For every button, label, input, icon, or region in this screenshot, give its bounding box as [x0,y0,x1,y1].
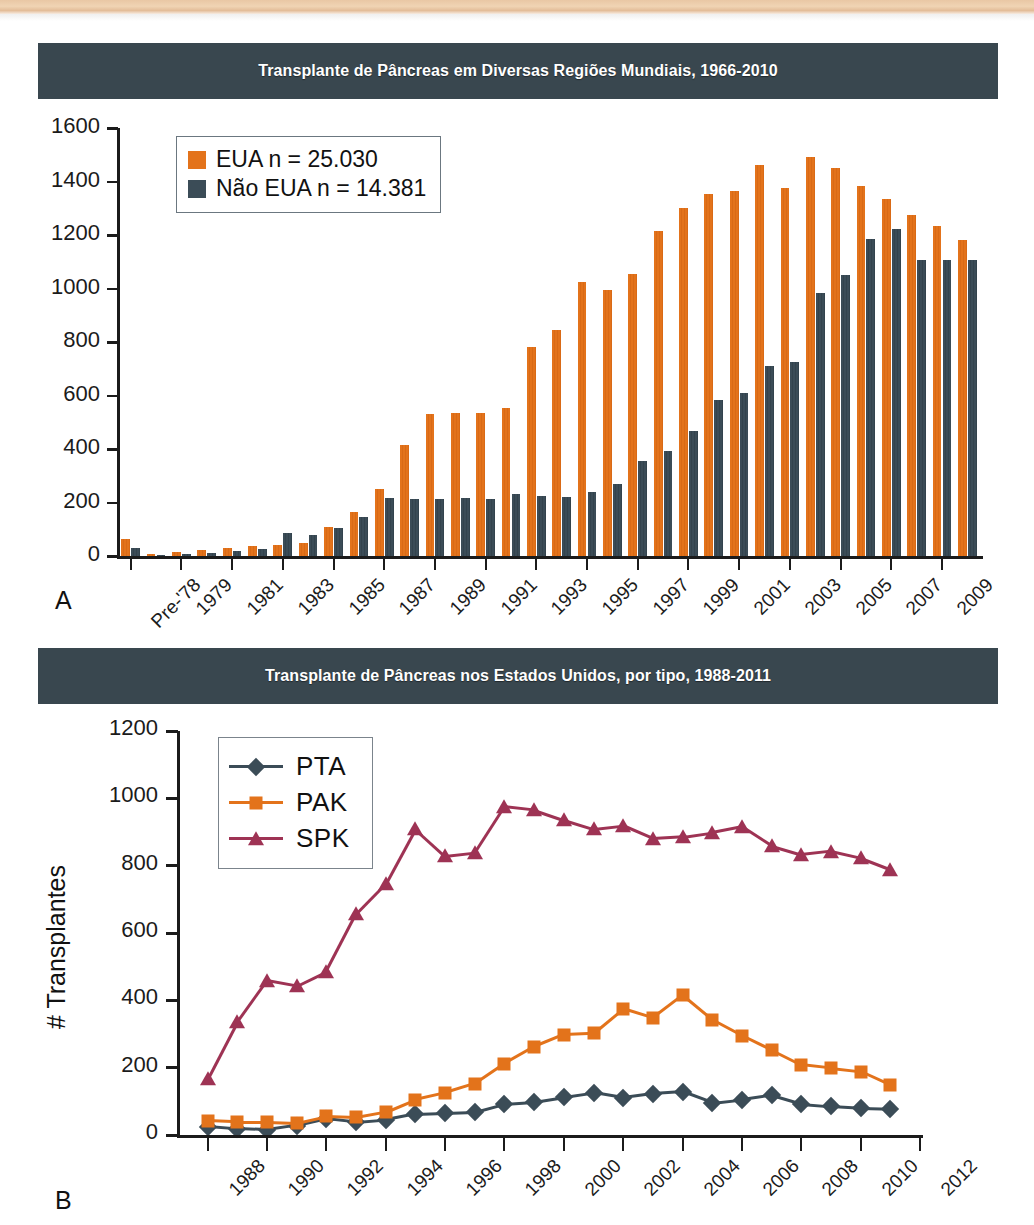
chart-b-y-tick-label: 0 [62,1119,158,1145]
chart-b-x-tick-label: 2002 [640,1155,685,1200]
chart-b-panel: 120010008006004002000# Transplantes19881… [0,715,1034,1215]
bar-nao-eua-1996 [613,484,622,556]
chart-a-x-tick-label: 1999 [699,574,744,619]
panel-a-letter: A [55,586,72,615]
data-point-spk [200,1072,216,1086]
bar-eua-2003 [781,188,790,556]
chart-a-x-axis [117,556,983,559]
data-point-pta [525,1093,543,1111]
chart-a-y-tick [107,448,118,451]
chart-b-y-tick [166,1066,178,1069]
chart-b-x-tick-label: 2000 [580,1155,625,1200]
chart-a-y-tick [107,127,118,130]
chart-a-x-tick-label: 1981 [242,574,287,619]
data-point-pta [792,1095,810,1113]
bar-nao-eua-1986 [359,517,368,556]
bar-eua-1998 [654,231,663,556]
bar-nao-eua-2006 [866,239,875,556]
data-point-spk [229,1015,245,1029]
data-point-pak [884,1079,897,1092]
data-point-spk [882,862,898,876]
chart-a-y-tick [107,234,118,237]
data-point-spk [437,849,453,863]
page-edge-strip [0,0,1034,14]
chart-a-x-tick [333,558,335,570]
chart-a-y-tick [107,502,118,505]
chart-b-x-tick [266,1138,268,1151]
chart-a-y-tick-label: 1200 [10,220,100,246]
chart-a-x-tick [738,558,740,570]
chart-b-x-tick [741,1138,743,1151]
chart-b-x-tick-label: 1990 [283,1155,328,1200]
data-point-pak [439,1086,452,1099]
chart-b-x-tick [444,1138,446,1151]
bar-eua-2006 [857,186,866,556]
chart-b-title: Transplante de Pâncreas nos Estados Unid… [265,667,771,685]
data-point-pta [406,1105,424,1123]
bar-eua-1995 [578,282,587,556]
bar-nao-eua-2000 [714,400,723,556]
legend-label: PTA [296,751,346,782]
data-point-pta [614,1089,632,1107]
bar-eua-Pre-'78 [121,539,130,556]
bar-nao-eua-1994 [562,497,571,556]
chart-a-x-tick-label: 1989 [445,574,490,619]
chart-a-x-tick-label: 2005 [851,574,896,619]
chart-a-x-tick-label: 1979 [192,574,237,619]
data-point-spk [407,822,423,836]
bar-nao-eua-1992 [512,494,521,556]
bar-nao-eua-2005 [841,275,850,556]
chart-a-x-tick [890,558,892,570]
data-point-pak [261,1116,274,1129]
chart-a-y-tick-label: 1600 [10,113,100,139]
bar-eua-1994 [552,330,561,556]
chart-b-x-tick-label: 1988 [224,1155,269,1200]
chart-a-x-tick-label: 2001 [750,574,795,619]
data-point-pta [436,1104,454,1122]
data-point-pta [851,1099,869,1117]
data-point-pak [468,1077,481,1090]
data-point-pta [733,1090,751,1108]
chart-b-x-tick [919,1138,921,1151]
chart-b-y-tick [166,797,178,800]
data-point-spk [526,802,542,816]
bar-eua-1982 [248,546,257,556]
chart-a-y-tick-label: 200 [10,488,100,514]
chart-b-x-tick-label: 1992 [343,1155,388,1200]
panel-b-letter: B [55,1186,72,1215]
chart-a-x-tick-label: 1997 [648,574,693,619]
chart-b-x-tick-label: 2008 [818,1155,863,1200]
data-point-pak [854,1065,867,1078]
chart-a-x-tick [637,558,639,570]
bar-eua-2009 [933,226,942,556]
chart-b-x-tick [860,1138,862,1151]
chart-a-x-tick-label: 1987 [395,574,440,619]
chart-a-x-tick-label: 1983 [293,574,338,619]
data-point-pta [495,1095,513,1113]
data-point-pak [824,1062,837,1075]
chart-a-x-tick [434,558,436,570]
chart-a-x-tick-label: 2007 [902,574,947,619]
eua-color-swatch [188,151,206,169]
chart-b-x-tick [385,1138,387,1151]
data-point-pta [703,1094,721,1112]
chart-b-y-tick-label: 1000 [62,782,158,808]
chart-b-x-tick-label: 1998 [521,1155,566,1200]
chart-a-y-tick [107,288,118,291]
bar-nao-eua-1984 [309,535,318,556]
data-point-pak [498,1057,511,1070]
data-point-pta [466,1103,484,1121]
chart-a-title-banner: Transplante de Pâncreas em Diversas Regi… [38,43,998,99]
data-point-pta [555,1088,573,1106]
data-point-spk [734,819,750,833]
legend-line-pta [229,765,283,768]
legend-line-pak [229,801,283,804]
data-point-spk [348,907,364,921]
data-point-pak [676,989,689,1002]
bar-eua-1996 [603,290,612,556]
bar-eua-2005 [831,168,840,556]
data-point-pak [201,1114,214,1127]
data-point-pta [584,1084,602,1102]
bar-nao-eua-1989 [435,499,444,556]
chart-a-title: Transplante de Pâncreas em Diversas Regi… [258,62,777,80]
